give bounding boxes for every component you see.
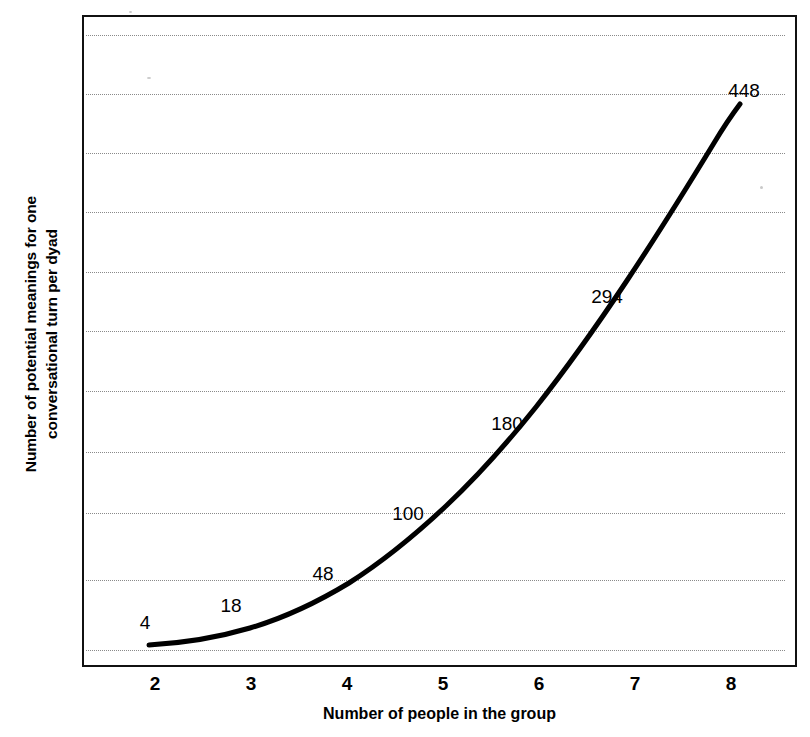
data-point-label: 294 [591,286,623,308]
data-point-label: 448 [728,80,760,102]
data-curve-line [149,104,740,645]
x-axis-tick-label: 5 [438,673,449,695]
y-axis-title-line-1: Number of potential meanings for one [20,195,41,471]
x-axis-tick-label: 2 [150,673,161,695]
data-point-label: 4 [140,612,151,634]
data-curve-svg [84,17,795,665]
y-axis-title-container: Number of potential meanings for one con… [0,0,82,667]
data-point-label: 48 [312,563,333,585]
plot-area: 41848100180294448 [82,15,797,667]
data-point-label: 100 [392,503,424,525]
data-point-label: 18 [220,595,241,617]
plot-inner: 41848100180294448 [84,17,795,665]
y-axis-title-line-2: conversational turn per dyad [41,195,62,471]
data-point-label: 180 [491,413,523,435]
x-axis-tick-label: 8 [726,673,737,695]
scan-speck [129,11,132,13]
x-axis-title: Number of people in the group [82,705,797,723]
x-axis-tick-label: 6 [534,673,545,695]
chart-page: Number of potential meanings for one con… [0,0,810,737]
x-axis-tick-label: 3 [246,673,257,695]
y-axis-title: Number of potential meanings for one con… [20,195,62,471]
x-axis-tick-label: 7 [630,673,641,695]
x-axis-tick-label: 4 [342,673,353,695]
